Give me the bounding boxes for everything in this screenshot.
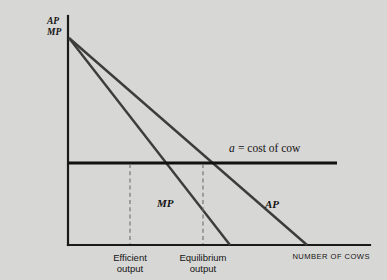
efficient-output-label-line1: Efficient xyxy=(113,252,147,263)
cost-symbol-label: a xyxy=(229,142,235,154)
chart-canvas: AP MP MP AP a = cost of cow Efficient ou… xyxy=(0,0,387,280)
y-axis-label-mp: MP xyxy=(46,27,61,37)
x-axis-caption: NUMBER OF COWS xyxy=(292,252,370,261)
equilibrium-output-label-line2: output xyxy=(190,263,217,274)
mp-curve-label: MP xyxy=(156,197,174,209)
equilibrium-output-label-line1: Equilibrium xyxy=(180,252,227,263)
mp-curve xyxy=(69,38,230,245)
cost-text-label: = cost of cow xyxy=(238,142,301,154)
y-axis-label-ap: AP xyxy=(46,16,59,26)
efficient-output-label-line2: output xyxy=(117,263,144,274)
ap-curve-label: AP xyxy=(264,198,279,210)
economics-diagram: AP MP MP AP a = cost of cow Efficient ou… xyxy=(0,0,387,280)
